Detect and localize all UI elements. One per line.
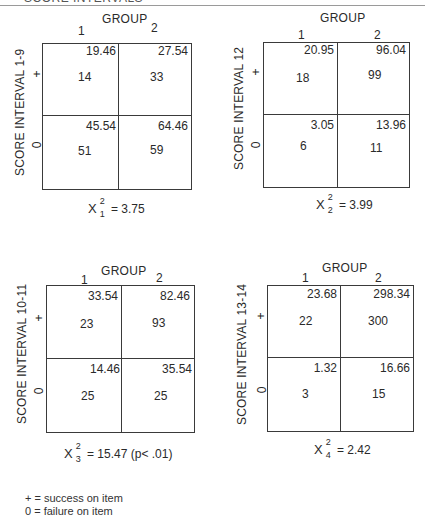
chi-value: = 2.42 bbox=[337, 443, 371, 457]
observed-r1-c2: 300 bbox=[368, 314, 388, 328]
observed-r2-c2: 15 bbox=[372, 387, 385, 401]
chi-superscript: 2 bbox=[326, 437, 331, 447]
group-col-2: 2 bbox=[375, 271, 382, 285]
observed-r2-c1: 3 bbox=[302, 387, 309, 401]
chi-square-result: X24 = 2.42 bbox=[314, 442, 371, 458]
grid-divider-vertical bbox=[340, 285, 341, 432]
observed-r1-c1: 22 bbox=[299, 314, 312, 328]
expected-r1-c1: 23.68 bbox=[299, 287, 337, 301]
chi-symbol: X bbox=[314, 442, 323, 457]
chi-subscript: 4 bbox=[326, 450, 331, 460]
interval-label: SCORE INTERVAL 13-14 bbox=[235, 284, 249, 425]
legend-success: + = success on item bbox=[25, 492, 123, 504]
expected-r2-c1: 1.32 bbox=[299, 361, 337, 375]
row-label-success: + bbox=[254, 310, 268, 322]
table-interval-13-14: GROUP 1 2 SCORE INTERVAL 13-14 + 0 23.68… bbox=[0, 0, 425, 470]
group-col-1: 1 bbox=[302, 271, 309, 285]
group-title: GROUP bbox=[322, 261, 368, 275]
grid-divider-horizontal bbox=[267, 357, 414, 358]
expected-r1-c2: 298.34 bbox=[365, 287, 410, 301]
legend-failure: 0 = failure on item bbox=[25, 505, 113, 517]
expected-r2-c2: 16.66 bbox=[370, 361, 410, 375]
